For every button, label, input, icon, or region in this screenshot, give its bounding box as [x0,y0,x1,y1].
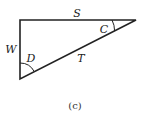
triangle-diagram: S W T C D (c) [0,0,147,115]
side-label-t: T [77,52,86,65]
side-label-s: S [73,7,81,20]
figure-caption: (c) [68,100,82,111]
angle-arc-c [112,20,115,31]
angle-label-d: D [26,52,36,65]
triangle-shape [20,20,136,79]
side-label-w: W [5,43,18,56]
angle-label-c: C [100,23,109,36]
